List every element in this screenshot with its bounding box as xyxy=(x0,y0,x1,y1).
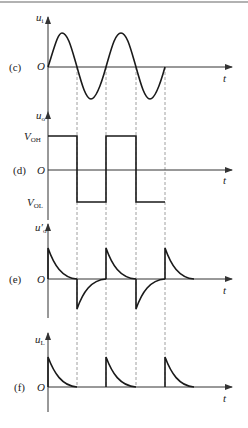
panel-d-xlabel: t xyxy=(223,175,226,186)
panel-d-tag: (d) xyxy=(13,165,26,176)
panel-f-axes xyxy=(48,333,232,412)
panel-d-vol-label: VOL xyxy=(27,197,43,210)
panel-f-ylabel: uL xyxy=(35,334,45,347)
panel-d-square-wave xyxy=(48,136,165,202)
panel-c-ylabel: ui xyxy=(36,12,43,25)
panel-d-ylabel: uo xyxy=(36,110,45,123)
panel-c-tag: (c) xyxy=(9,62,21,73)
panel-f-origin: O xyxy=(37,382,45,393)
panel-e-ylabel: u′o xyxy=(35,222,46,235)
panel-e-tag: (e) xyxy=(9,274,21,285)
panel-f-xlabel: t xyxy=(223,393,226,404)
panel-f-spikes xyxy=(48,357,194,387)
panel-c-origin: O xyxy=(37,61,45,72)
panel-e-axes xyxy=(48,224,232,318)
panel-c-xlabel: t xyxy=(223,73,226,84)
panel-e-origin: O xyxy=(37,274,45,285)
panel-d-axes xyxy=(48,112,232,220)
panel-e-xlabel: t xyxy=(223,285,226,296)
panel-d-origin: O xyxy=(37,165,45,176)
panel-f-tag: (f) xyxy=(14,382,25,393)
panel-c-sine-wave xyxy=(48,33,165,99)
panel-d-voh-label: VOH xyxy=(24,131,41,144)
dashed-guides xyxy=(77,67,165,387)
